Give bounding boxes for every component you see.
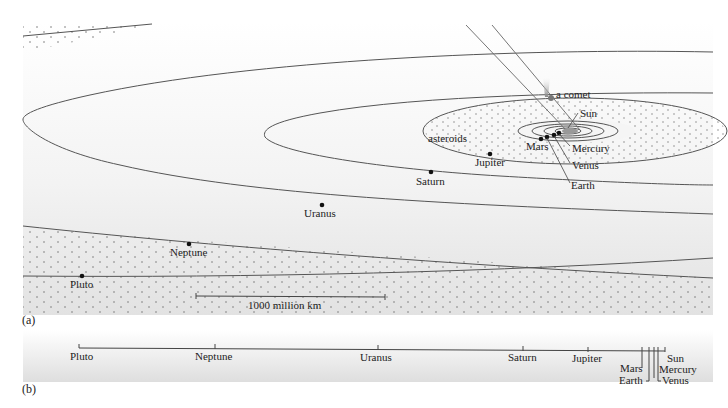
b-label-saturn: Saturn <box>508 351 537 363</box>
b-label-jupiter: Jupiter <box>572 352 602 364</box>
b-label-pluto: Pluto <box>70 350 94 362</box>
panel-b: Pluto Neptune Uranus Saturn Jupiter Mars… <box>23 330 713 386</box>
label-neptune: Neptune <box>170 246 207 258</box>
label-sun: Sun <box>580 107 598 119</box>
b-label-neptune: Neptune <box>195 350 232 362</box>
panel-b-caption: (b) <box>22 382 36 396</box>
planet-saturn-dot <box>429 170 434 175</box>
solar-system-diagram: a comet Sun Mercury Venus Earth Mars ast… <box>0 0 728 408</box>
planet-mercury-dot <box>557 131 562 136</box>
label-mars: Mars <box>526 140 549 152</box>
panel-a-caption: (a) <box>22 313 35 327</box>
comet-icon <box>548 95 554 101</box>
panel-a: a comet Sun Mercury Venus Earth Mars ast… <box>23 22 727 315</box>
label-mercury: Mercury <box>572 142 610 154</box>
sun-icon <box>562 128 578 134</box>
label-uranus: Uranus <box>304 207 336 219</box>
label-saturn: Saturn <box>416 175 445 187</box>
label-jupiter: Jupiter <box>475 156 505 168</box>
b-label-earth: Earth <box>619 374 643 386</box>
b-label-uranus: Uranus <box>360 351 392 363</box>
asteroids-label: asteroids <box>428 132 467 144</box>
comet-label: a comet <box>556 88 591 100</box>
scale-bar-label: 1000 million km <box>248 299 322 311</box>
b-label-venus: Venus <box>662 374 689 386</box>
b-label-mars: Mars <box>620 362 643 374</box>
label-pluto: Pluto <box>70 278 94 290</box>
label-earth: Earth <box>571 179 595 191</box>
label-venus: Venus <box>572 159 599 171</box>
